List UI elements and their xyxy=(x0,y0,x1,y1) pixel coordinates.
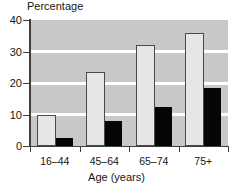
x-tick-label: 45–64 xyxy=(80,155,130,167)
plot-area xyxy=(30,20,228,146)
x-tick-mark xyxy=(129,147,130,152)
x-tick-label: 75+ xyxy=(179,155,229,167)
y-tick-label: 10 xyxy=(2,110,22,121)
y-tick-label: 30 xyxy=(2,47,22,58)
y-tick-label: 0 xyxy=(2,141,22,152)
bar-light xyxy=(37,115,56,147)
x-tick-mark xyxy=(30,147,31,152)
bar-dark xyxy=(56,138,73,146)
x-axis-line xyxy=(23,146,229,147)
chart-title: Percentage xyxy=(27,0,83,13)
bar-dark xyxy=(155,107,172,146)
bar-dark xyxy=(204,88,221,146)
bar-dark xyxy=(105,121,122,146)
bar-light xyxy=(86,72,105,146)
y-tick-label: 40 xyxy=(2,15,22,26)
x-tick-mark xyxy=(80,147,81,152)
x-tick-label: 16–44 xyxy=(30,155,80,167)
y-tick-mark xyxy=(23,115,30,116)
bar-light xyxy=(185,33,204,146)
y-tick-mark xyxy=(23,52,30,53)
y-tick-label: 20 xyxy=(2,78,22,89)
x-tick-mark xyxy=(228,147,229,152)
y-tick-mark xyxy=(23,20,30,21)
x-tick-mark xyxy=(179,147,180,152)
y-tick-mark xyxy=(23,146,30,147)
y-tick-mark xyxy=(23,83,30,84)
bar-light xyxy=(136,45,155,146)
x-tick-label: 65–74 xyxy=(129,155,179,167)
x-axis-title: Age (years) xyxy=(0,171,233,184)
bar-chart: Percentage 010203040 16–4445–6465–7475+ … xyxy=(0,0,233,187)
